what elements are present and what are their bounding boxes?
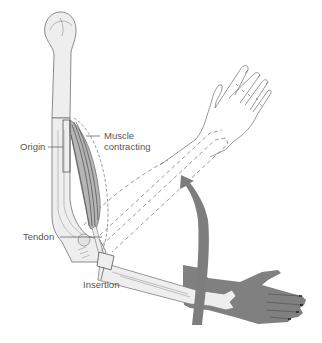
insertion-label: Insertion — [83, 280, 119, 290]
origin-label: Origin — [20, 142, 45, 152]
raised-hand-outline — [160, 66, 271, 165]
humerus-bone — [45, 12, 76, 118]
tendon-label: Tendon — [23, 232, 54, 242]
muscle-contracting-label-line2: contracting — [104, 142, 150, 152]
elbow-flexion-diagram — [0, 0, 322, 343]
muscle-contracting-label-line1: Muscle — [104, 131, 134, 141]
